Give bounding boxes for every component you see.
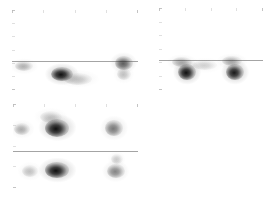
grid-line-vertical	[159, 8, 160, 90]
grid-line-horizontal	[13, 104, 138, 105]
signal-spot-halo	[221, 60, 249, 85]
grid-line-vertical	[106, 104, 107, 188]
grid-line-vertical	[137, 104, 138, 188]
grid-line-vertical	[13, 104, 14, 188]
signal-spot-halo	[13, 120, 35, 139]
signal-spot	[115, 56, 133, 70]
grid-line-vertical	[43, 10, 44, 90]
grid-line-horizontal	[13, 125, 138, 126]
panel-bottom-left	[13, 104, 138, 188]
grid-line-horizontal	[12, 50, 138, 51]
signal-spot	[45, 162, 69, 178]
dashed-grid	[159, 8, 263, 90]
grid-line-horizontal	[12, 76, 138, 77]
signal-spot	[40, 111, 62, 123]
grid-line-horizontal	[12, 89, 138, 90]
grid-line-horizontal	[13, 146, 138, 147]
panel-divider-line	[13, 151, 138, 152]
grid-line-horizontal	[12, 10, 138, 11]
grid-line-horizontal	[159, 8, 263, 9]
grid-line-vertical	[75, 104, 76, 188]
grid-line-horizontal	[13, 166, 138, 167]
signal-spot-halo	[216, 54, 247, 70]
signal-spot-halo	[33, 107, 67, 126]
panel-divider-line	[159, 60, 263, 61]
signal-spot	[51, 67, 73, 81]
signal-spot-halo	[56, 70, 99, 89]
signal-spot	[117, 68, 131, 80]
grid-line-vertical	[106, 10, 107, 90]
signal-spot	[15, 61, 33, 71]
grid-line-horizontal	[159, 62, 263, 63]
signal-spot-halo	[102, 160, 130, 182]
signal-spot-halo	[39, 114, 76, 142]
panel-top-right	[159, 8, 263, 90]
signal-spot-halo	[166, 54, 197, 70]
grid-line-horizontal	[159, 49, 263, 50]
grid-line-vertical	[44, 104, 45, 188]
grid-line-vertical	[75, 10, 76, 90]
signal-spot	[193, 60, 217, 70]
signal-spot	[14, 123, 30, 135]
grid-line-vertical	[12, 10, 13, 90]
dashed-grid	[12, 10, 138, 90]
grid-line-vertical	[262, 8, 263, 90]
grid-line-horizontal	[12, 63, 138, 64]
signal-spot-halo	[173, 60, 201, 85]
grid-line-vertical	[137, 10, 138, 90]
signal-spot-halo	[107, 152, 126, 168]
dashed-grid	[13, 104, 138, 188]
signal-spot-halo	[45, 63, 79, 85]
grid-line-vertical	[185, 8, 186, 90]
panel-divider-line	[12, 61, 138, 62]
grid-line-horizontal	[12, 36, 138, 37]
signal-spot	[107, 164, 125, 178]
signal-spot	[22, 165, 38, 177]
signal-spot	[105, 120, 123, 136]
grid-line-horizontal	[12, 23, 138, 24]
grid-line-vertical	[211, 8, 212, 90]
grid-line-vertical	[236, 8, 237, 90]
grid-line-horizontal	[159, 35, 263, 36]
grid-line-horizontal	[13, 187, 138, 188]
signal-spot-halo	[113, 65, 135, 84]
grid-line-horizontal	[159, 22, 263, 23]
grid-line-horizontal	[159, 89, 263, 90]
figure-canvas	[0, 0, 273, 203]
signal-spot-halo	[17, 162, 42, 181]
signal-spot	[64, 73, 92, 85]
signal-spot	[172, 57, 192, 67]
signal-spot	[226, 64, 244, 80]
signal-spot-halo	[39, 158, 76, 183]
signal-spot-halo	[110, 52, 138, 74]
panel-top-left	[12, 10, 138, 90]
signal-spot-halo	[12, 58, 38, 74]
signal-spot-halo	[186, 58, 223, 74]
signal-spot	[45, 119, 69, 137]
signal-spot	[222, 56, 242, 66]
signal-spot	[178, 64, 196, 80]
signal-spot-halo	[100, 116, 128, 141]
grid-line-horizontal	[159, 76, 263, 77]
signal-spot	[111, 154, 123, 164]
